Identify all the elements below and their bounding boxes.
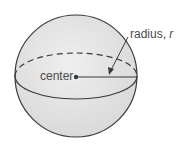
center-point [74, 75, 78, 79]
center-label: center [40, 69, 73, 83]
radius-label: radius, r [130, 27, 174, 41]
sphere-diagram: center radius, r [0, 0, 186, 144]
